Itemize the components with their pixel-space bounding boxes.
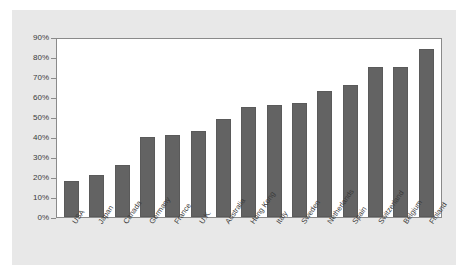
x-axis: USAJapanCanadaGermanyFranceU.K.Australia…: [56, 219, 442, 271]
y-axis-tick-label: 40%: [33, 134, 51, 142]
bar: [216, 119, 231, 217]
x-axis-tick: Australia: [216, 219, 231, 271]
x-axis-tick: France: [165, 219, 180, 271]
x-axis-tick: Spain: [343, 219, 358, 271]
bar: [368, 67, 383, 217]
x-axis-tick: Hong Kong: [241, 219, 256, 271]
y-axis-tick-label: 60%: [33, 94, 51, 102]
y-axis-tick-label: 10%: [33, 194, 51, 202]
x-axis-tick: Switzerland: [369, 219, 384, 271]
x-axis-tick: Japan: [89, 219, 104, 271]
y-axis-tick-label: 20%: [33, 174, 51, 182]
bar: [419, 49, 434, 217]
y-axis-tick-label: 0%: [37, 214, 51, 222]
plot-area: [56, 38, 442, 218]
y-axis-tick-label: 30%: [33, 154, 51, 162]
x-axis-tick: Finland: [420, 219, 435, 271]
bar: [191, 131, 206, 217]
y-axis-tick-label: 90%: [33, 34, 51, 42]
y-axis-tick-label: 50%: [33, 114, 51, 122]
x-axis-tick: U.K.: [190, 219, 205, 271]
x-axis-tick: Belgium: [394, 219, 409, 271]
x-axis-tick: Canada: [114, 219, 129, 271]
bar: [292, 103, 307, 217]
x-axis-tick: Italy: [267, 219, 282, 271]
bar: [317, 91, 332, 217]
x-axis-tick: Netherlands: [318, 219, 333, 271]
y-axis-tick-label: 80%: [33, 54, 51, 62]
chart-figure: 90%80%70%60%50%40%30%20%10%0% USAJapanCa…: [12, 10, 456, 265]
x-axis-tick: USA: [63, 219, 78, 271]
x-axis-tick: Germany: [140, 219, 155, 271]
x-axis-tick: Sweden: [292, 219, 307, 271]
bar-series: [57, 39, 441, 217]
y-axis-tick-label: 70%: [33, 74, 51, 82]
y-axis: 90%80%70%60%50%40%30%20%10%0%: [12, 10, 56, 219]
